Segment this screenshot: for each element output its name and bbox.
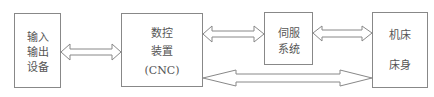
arrow-cnc-servo (203, 26, 264, 42)
node-machine: 机床 床身 (372, 12, 428, 88)
node-label: 输出 (15, 46, 60, 59)
node-label: 数控 (122, 27, 202, 40)
arrow-io-cnc (61, 44, 121, 60)
node-label: 装置 (122, 45, 202, 58)
node-label: 机床 (373, 29, 427, 42)
node-label: 伺服 (265, 27, 312, 40)
node-label: 输入 (15, 31, 60, 44)
arrow-cnc-machine (203, 70, 372, 86)
node-label: (CNC) (122, 64, 202, 77)
node-servo: 伺服 系统 (264, 12, 313, 65)
node-cnc: 数控 装置 (CNC) (121, 13, 203, 87)
node-label: 床身 (373, 59, 427, 72)
arrows-layer (0, 0, 434, 97)
node-io-device: 输入 输出 设备 (14, 13, 61, 88)
node-label: 系统 (265, 43, 312, 56)
arrow-servo-machine (313, 26, 372, 41)
node-label: 设备 (15, 61, 60, 74)
